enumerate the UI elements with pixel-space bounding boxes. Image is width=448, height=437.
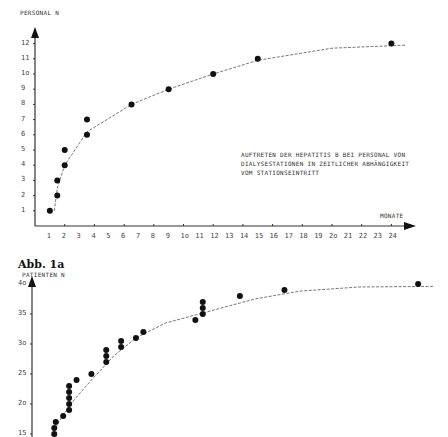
x-tick-label: 18 <box>299 232 307 240</box>
x-tick-label: 15 <box>255 232 263 240</box>
x-tick-label: 7 <box>136 232 140 240</box>
x-tick-label: 1o <box>181 232 189 240</box>
x-tick-label: 9 <box>166 232 170 240</box>
y-axis-label-top: Personal N <box>20 9 59 16</box>
y-tick-label: 2o <box>18 399 26 407</box>
y-tick-label: 11 <box>21 54 29 62</box>
y-tick-label: 4 <box>21 160 25 168</box>
y-tick-label: 3o <box>18 339 26 347</box>
x-tick-label: 19 <box>314 232 322 240</box>
x-tick-label: 12 <box>210 232 218 240</box>
x-tick-label: 17 <box>284 232 292 240</box>
y-tick-label: 5 <box>21 145 25 153</box>
x-tick-label: 21 <box>344 232 352 240</box>
y-tick-label: 35 <box>18 309 26 317</box>
x-tick-label: 1 <box>47 232 51 240</box>
chart-caption: Auftreten der Hepatitis B bei Personal v… <box>241 150 409 177</box>
y-tick-label: 12 <box>21 39 29 47</box>
x-tick-label: 11 <box>195 232 203 240</box>
y-tick-label: 7 <box>21 115 25 123</box>
x-axis-label-top: Monate <box>380 212 403 219</box>
y-tick-label: 6 <box>21 130 25 138</box>
x-tick-label: 14 <box>240 232 248 240</box>
x-tick-label: 13 <box>225 232 233 240</box>
x-tick-label: 3 <box>77 232 81 240</box>
y-tick-label: 2 <box>21 191 25 199</box>
x-tick-label: 23 <box>374 232 382 240</box>
y-tick-label: 3 <box>21 175 25 183</box>
x-tick-label: 16 <box>270 232 278 240</box>
y-tick-label: 8 <box>21 99 25 107</box>
figure-label: Abb. 1a <box>18 258 64 271</box>
x-tick-label: 6 <box>121 232 125 240</box>
x-tick-label: 2 <box>62 232 66 240</box>
x-tick-label: 5 <box>106 232 110 240</box>
y-tick-label: 9 <box>21 84 25 92</box>
y-tick-label: 15 <box>18 429 26 437</box>
x-tick-label: 22 <box>359 232 367 240</box>
y-tick-label: 1o <box>21 69 29 77</box>
x-tick-label: 8 <box>151 232 155 240</box>
x-tick-label: 4 <box>91 232 95 240</box>
y-tick-label: 1 <box>21 206 25 214</box>
y-tick-label: 4o <box>18 279 26 287</box>
y-axis-label-bottom: Patienten n <box>22 271 65 278</box>
x-tick-label: 2o <box>329 232 337 240</box>
y-tick-label: 25 <box>18 369 26 377</box>
x-tick-label: 24 <box>388 232 396 240</box>
